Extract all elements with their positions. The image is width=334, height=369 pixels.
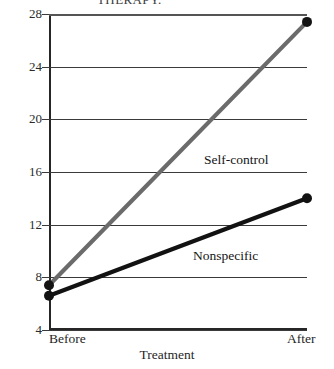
caption-strip: THERAPY. [0,0,334,13]
tick-mark-24 [42,67,49,68]
tick-mark-4 [42,330,49,331]
tick-mark-20 [42,119,49,120]
y-tick-label-20: 20 [2,111,42,127]
y-tick-label-12: 12 [2,217,42,233]
plot-area [49,14,307,330]
series-label-nonspecific: Nonspecific [193,248,258,264]
x-tick-after: After [287,331,315,347]
x-axis-title: Treatment [0,347,334,363]
gridline-4 [49,330,307,331]
y-tick-label-4: 4 [2,322,42,338]
tick-mark-8 [42,277,49,278]
caption-text: THERAPY. [97,0,162,8]
y-tick-label-8: 8 [2,269,42,285]
series-label-self-control: Self-control [204,152,268,168]
y-tick-label-16: 16 [2,164,42,180]
data-point-self-control-after [302,17,312,27]
tick-mark-16 [42,172,49,173]
y-tick-label-24: 24 [2,59,42,75]
data-point-nonspecific-before [44,291,54,301]
y-tick-label-28: 28 [2,6,42,22]
series-layer [49,14,307,330]
x-tick-before: Before [49,331,86,347]
tick-mark-12 [42,225,49,226]
tick-mark-28 [42,14,49,15]
data-point-self-control-before [44,280,54,290]
figure: THERAPY. Social interaction 481216202428… [0,0,334,369]
data-point-nonspecific-after [302,193,312,203]
